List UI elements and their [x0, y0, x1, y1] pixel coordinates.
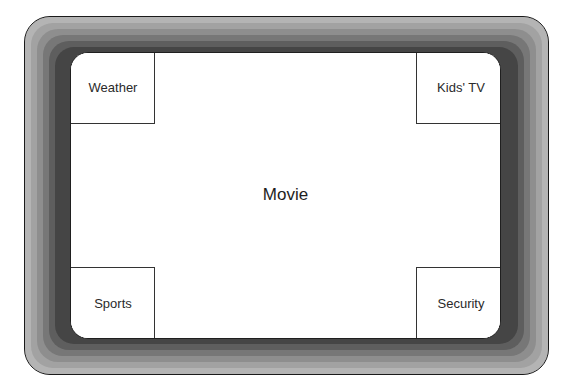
pip-label: Kids' TV — [437, 80, 485, 95]
pip-kids-tv: Kids' TV — [416, 52, 501, 124]
main-region-label: Movie — [71, 185, 500, 205]
pip-sports: Sports — [70, 267, 155, 339]
pip-label: Weather — [89, 80, 138, 95]
pip-security: Security — [416, 267, 501, 339]
tv-screen: Weather Kids' TV Sports Security Movie — [70, 52, 501, 339]
pip-weather: Weather — [70, 52, 155, 124]
pip-label: Security — [438, 296, 485, 311]
pip-label: Sports — [94, 296, 132, 311]
